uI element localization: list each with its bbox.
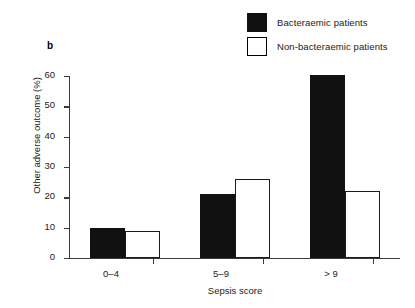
x-axis-title: Sepsis score [70,285,400,296]
chart-legend: Bacteraemic patients Non-bacteraemic pat… [247,10,412,58]
y-tick-0: 0 [64,258,70,259]
filled-square-icon [247,13,267,32]
y-tick-label-10: 10 [44,221,55,232]
y-tick-label-50: 50 [44,99,55,110]
x-axis-line [69,258,400,259]
figure-panel-b: Bacteraemic patients Non-bacteraemic pat… [0,0,415,308]
x-tick-boundary-2 [263,258,264,264]
bar-non-bacteraemic-0-4 [125,231,160,258]
y-tick-10: 10 [64,228,70,229]
bar-non-bacteraemic-5-9 [235,179,270,258]
y-tick-label-60: 60 [44,69,55,80]
y-tick-label-20: 20 [44,190,55,201]
y-tick-30: 30 [64,167,70,168]
bar-bacteraemic-gt-9 [310,75,345,259]
y-tick-50: 50 [64,106,70,107]
panel-letter: b [47,40,53,51]
x-tick-label-5-9: 5–9 [213,268,229,279]
x-tick-label-0-4: 0–4 [103,268,119,279]
y-tick-label-0: 0 [50,251,55,262]
plot-area: 0 10 20 30 40 50 60 0–4 5–9 > 9 [70,76,400,258]
y-tick-label-40: 40 [44,130,55,141]
y-tick-60: 60 [64,76,70,77]
bar-bacteraemic-5-9 [200,194,235,258]
x-tick-boundary-1 [153,258,154,264]
legend-label-bacteraemic: Bacteraemic patients [277,17,368,28]
bar-non-bacteraemic-gt-9 [345,191,380,258]
y-axis-title: Other adverse outcome (%) [31,46,42,226]
bar-bacteraemic-0-4 [90,228,125,258]
y-tick-20: 20 [64,197,70,198]
legend-item-non-bacteraemic: Non-bacteraemic patients [247,34,412,58]
y-tick-label-30: 30 [44,160,55,171]
hollow-square-icon [247,37,267,56]
x-tick-label-gt-9: > 9 [324,268,337,279]
x-tick-boundary-3 [373,258,374,264]
legend-label-non-bacteraemic: Non-bacteraemic patients [277,41,388,52]
legend-item-bacteraemic: Bacteraemic patients [247,10,412,34]
y-tick-40: 40 [64,137,70,138]
